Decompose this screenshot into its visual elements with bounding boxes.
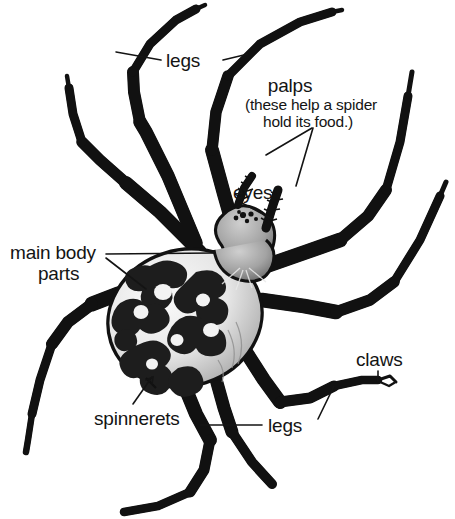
leader-main-body-1 xyxy=(106,253,214,254)
label-claws: claws xyxy=(356,349,403,370)
label-eyes: eyes xyxy=(233,182,272,203)
label-palps: palps xyxy=(268,75,312,96)
label-legs-bottom: legs xyxy=(268,415,302,436)
label-spinnerets: spinnerets xyxy=(94,408,180,429)
diagram-canvas: legs palps (these help a spider hold its… xyxy=(0,0,455,519)
label-main-body-parts-line2: parts xyxy=(38,263,79,284)
label-palps-note-line2: hold its food.) xyxy=(263,113,353,130)
label-main-body-parts-line1: main body xyxy=(10,242,97,263)
label-palps-note-line1: (these help a spider xyxy=(245,96,377,113)
spider-anatomy-diagram: legs palps (these help a spider hold its… xyxy=(0,0,455,519)
label-legs-top: legs xyxy=(166,50,200,71)
